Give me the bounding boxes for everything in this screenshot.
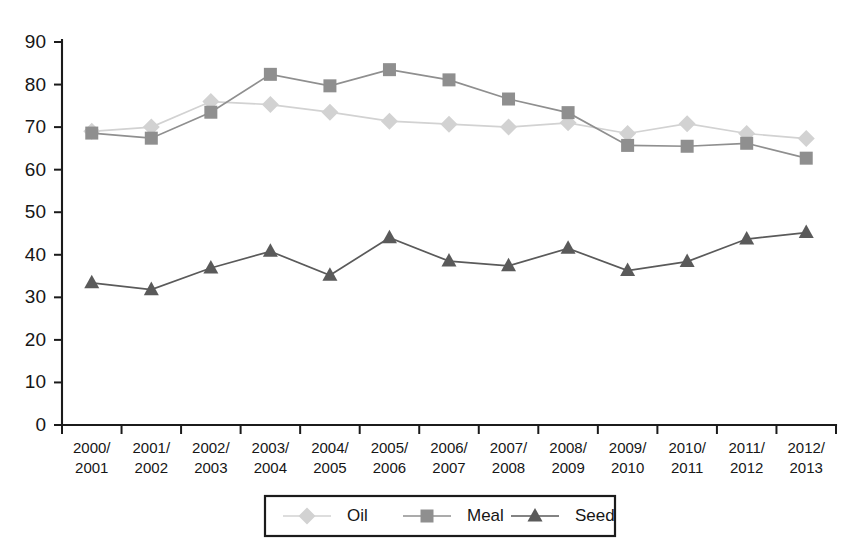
x-tick-label: 2009	[551, 459, 584, 476]
data-point-square-marker	[681, 140, 694, 153]
data-point-triangle-marker	[561, 240, 576, 254]
y-axis: 0102030405060708090	[25, 31, 62, 435]
x-tick-label: 2002/	[192, 439, 230, 456]
data-point-square-marker	[562, 106, 575, 119]
x-tick-label: 2005/	[371, 439, 409, 456]
x-tick-label: 2001/	[133, 439, 171, 456]
x-tick-label: 2003/	[252, 439, 290, 456]
y-tick-label: 60	[25, 159, 46, 180]
x-tick-label: 2011/	[728, 439, 765, 456]
x-tick-label: 2008	[492, 459, 525, 476]
y-tick-label: 50	[25, 201, 46, 222]
y-tick-label: 40	[25, 244, 46, 265]
data-point-diamond-marker	[441, 116, 458, 133]
series-seed	[84, 225, 813, 296]
line-chart: 0102030405060708090 2000/20012001/200220…	[0, 0, 852, 558]
x-tick-label: 2008/	[549, 439, 587, 456]
y-tick-label: 30	[25, 286, 46, 307]
x-tick-label: 2007	[432, 459, 465, 476]
data-point-diamond-marker	[500, 119, 517, 136]
data-point-diamond-marker	[798, 130, 815, 147]
x-tick-label: 2011	[671, 459, 703, 476]
x-axis: 2000/20012001/20022002/20032003/20042004…	[62, 425, 836, 476]
x-tick-label: 2001	[75, 459, 108, 476]
data-point-triangle-marker	[382, 230, 397, 244]
data-point-diamond-marker	[381, 113, 398, 130]
x-tick-label: 2003	[194, 459, 227, 476]
data-point-square-marker	[85, 127, 98, 140]
x-tick-label: 2010/	[668, 439, 706, 456]
series-meal	[85, 63, 812, 165]
y-tick-label: 20	[25, 329, 46, 350]
chart-canvas: 0102030405060708090 2000/20012001/200220…	[0, 0, 852, 558]
x-tick-label: 2013	[790, 459, 823, 476]
x-tick-label: 2002	[135, 459, 168, 476]
y-tick-label: 70	[25, 116, 46, 137]
x-tick-label: 2000/	[73, 439, 111, 456]
data-point-triangle-marker	[263, 243, 278, 257]
x-tick-label: 2007/	[490, 439, 528, 456]
x-tick-label: 2005	[313, 459, 346, 476]
x-tick-label: 2006	[373, 459, 406, 476]
x-tick-label: 2009/	[609, 439, 647, 456]
legend-label: Oil	[347, 506, 368, 525]
x-tick-label: 2004/	[311, 439, 349, 456]
data-point-square-marker	[145, 132, 158, 145]
y-tick-label: 10	[25, 371, 46, 392]
x-tick-label: 2004	[254, 459, 287, 476]
data-point-triangle-marker	[84, 275, 99, 289]
data-point-diamond-marker	[679, 115, 696, 132]
data-point-square-marker	[323, 79, 336, 92]
x-tick-label: 2010	[611, 459, 644, 476]
legend-label: Meal	[467, 506, 504, 525]
data-point-square-marker	[421, 510, 434, 523]
data-point-square-marker	[502, 93, 515, 106]
data-point-square-marker	[621, 139, 634, 152]
data-series-group	[83, 63, 814, 295]
y-tick-label: 0	[35, 414, 46, 435]
data-point-diamond-marker	[262, 96, 279, 113]
data-point-square-marker	[443, 73, 456, 86]
data-point-square-marker	[204, 106, 217, 119]
chart-legend: OilMealSeed	[265, 496, 615, 536]
y-tick-label: 90	[25, 31, 46, 52]
data-point-square-marker	[383, 63, 396, 76]
x-tick-label: 2012/	[787, 439, 825, 456]
data-point-diamond-marker	[321, 104, 338, 121]
data-point-square-marker	[800, 152, 813, 165]
plot-area: 0102030405060708090 2000/20012001/200220…	[25, 31, 836, 536]
legend-label: Seed	[575, 506, 615, 525]
y-tick-label: 80	[25, 74, 46, 95]
x-tick-label: 2006/	[430, 439, 468, 456]
data-point-square-marker	[740, 137, 753, 150]
data-point-triangle-marker	[799, 225, 814, 239]
x-tick-label: 2012	[730, 459, 763, 476]
data-point-square-marker	[264, 68, 277, 81]
